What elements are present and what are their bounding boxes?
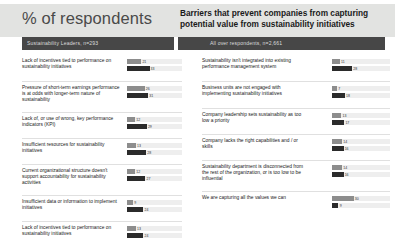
chart-row: Current organizational structure doesn't… <box>22 165 182 196</box>
bar-fill-others <box>127 150 146 155</box>
bar-value-label: 18 <box>346 93 350 99</box>
bar-track: 21 <box>127 59 182 64</box>
bar-value-label: 13 <box>137 143 141 149</box>
bar-value-label: 12 <box>136 169 140 175</box>
chart-row-label: Lack of incentives tied to performance o… <box>22 225 120 237</box>
bar-track: 18 <box>332 93 390 98</box>
bar-fill-others <box>127 176 145 181</box>
chart-page: % of respondents Barriers that prevent c… <box>0 0 395 248</box>
subheader-label-others: All over respondents, n=2,661 <box>210 40 282 46</box>
bar-fill-others <box>127 207 143 212</box>
chart-row-bars: 2133 <box>127 59 182 73</box>
bar-value-label: 16 <box>345 172 349 178</box>
bar-fill-others <box>127 233 143 238</box>
chart-row-label: Current organizational structure doesn't… <box>22 168 120 187</box>
chart-row-label: Lack of incentives tied to performance o… <box>22 58 120 70</box>
bar-fill-leaders <box>332 139 342 144</box>
bar-value-label: 12 <box>136 117 140 123</box>
page-title-left: % of respondents <box>22 9 152 28</box>
bar-track: 30 <box>332 196 390 201</box>
chart-row-label: Lack of, or use of wrong, key performanc… <box>22 116 120 128</box>
chart-row-bars: 1128 <box>332 59 390 73</box>
chart-row-bars: 924 <box>127 200 182 214</box>
bar-track: 33 <box>127 66 182 71</box>
chart-row: Lack of incentives tied to performance o… <box>22 222 182 248</box>
bar-value-label: 27 <box>147 176 151 182</box>
subheader-bar-others: All over respondents, n=2,661 <box>178 37 385 50</box>
chart-row: Business units are not engaged with impl… <box>202 82 390 109</box>
bar-fill-leaders <box>332 165 342 170</box>
bar-fill-others <box>127 93 148 98</box>
bar-track: 28 <box>332 66 390 71</box>
bar-track: 13 <box>127 143 182 148</box>
bar-track: 26 <box>127 86 182 91</box>
bar-fill-others <box>332 172 344 177</box>
bar-fill-others <box>332 120 344 125</box>
bar-fill-leaders <box>127 59 141 64</box>
bar-track: 9 <box>332 203 390 208</box>
bar-value-label: 31 <box>149 93 153 99</box>
chart-row-bars: 1324 <box>127 226 182 240</box>
bar-fill-leaders <box>127 169 135 174</box>
chart-row-label: Insufficient data or information to impl… <box>22 199 120 211</box>
bar-fill-others <box>127 124 147 129</box>
subheader-bar-leaders: Sustainability Leaders, n=293 <box>22 37 174 50</box>
subheader-label-leaders: Sustainability Leaders, n=293 <box>27 40 98 46</box>
chart-row: Insufficient data or information to impl… <box>22 196 182 222</box>
bar-track: 12 <box>127 117 182 122</box>
chart-row: We are capturing all the values we can30… <box>202 192 390 218</box>
bar-fill-leaders <box>332 86 337 91</box>
chart-row-label: Business units are not engaged with impl… <box>202 85 306 97</box>
bar-fill-leaders <box>332 59 340 64</box>
bar-fill-leaders <box>127 226 136 231</box>
chart-column-left: Lack of incentives tied to performance o… <box>22 55 182 248</box>
chart-row-bars: 1229 <box>127 117 182 131</box>
bar-value-label: 28 <box>353 66 357 72</box>
bar-fill-others <box>127 66 150 71</box>
bar-value-label: 24 <box>144 207 148 213</box>
bar-fill-others <box>332 93 345 98</box>
bar-track: 14 <box>332 165 390 170</box>
bar-value-label: 16 <box>345 146 349 152</box>
bar-fill-leaders <box>332 113 341 118</box>
bar-fill-leaders <box>332 196 354 201</box>
chart-column-right: Sustainability isn't integrated into exi… <box>202 55 390 218</box>
bar-value-label: 13 <box>343 113 347 119</box>
bar-track: 12 <box>127 169 182 174</box>
bar-value-label: 17 <box>345 120 349 126</box>
chart-row-bars: 718 <box>332 86 390 100</box>
chart-row-label: Insufficient resources for sustainabilit… <box>22 142 120 154</box>
bar-track: 29 <box>127 124 182 129</box>
chart-row: Sustainability department is disconnecte… <box>202 161 390 192</box>
bar-value-label: 29 <box>148 124 152 130</box>
bar-fill-others <box>332 66 352 71</box>
chart-row-label: We are capturing all the values we can <box>202 195 306 201</box>
chart-row: Insufficient resources for sustainabilit… <box>22 139 182 165</box>
chart-row-bars: 1328 <box>127 143 182 157</box>
bar-value-label: 21 <box>142 59 146 65</box>
bar-fill-others <box>332 203 338 208</box>
bar-value-label: 7 <box>338 86 340 92</box>
bar-fill-leaders <box>127 117 135 122</box>
bar-value-label: 13 <box>137 226 141 232</box>
bar-track: 24 <box>127 233 182 238</box>
bar-track: 7 <box>332 86 390 91</box>
bar-track: 24 <box>127 207 182 212</box>
bar-track: 11 <box>332 59 390 64</box>
chart-row: Company leadership sets sustainability a… <box>202 109 390 135</box>
bar-value-label: 26 <box>146 86 150 92</box>
chart-row-bars: 1227 <box>127 169 182 183</box>
bar-value-label: 33 <box>151 66 155 72</box>
bar-value-label: 30 <box>355 196 359 202</box>
chart-row-bars: 309 <box>332 196 390 210</box>
bar-value-label: 14 <box>343 139 347 145</box>
chart-row: Lack of incentives tied to performance o… <box>22 55 182 82</box>
chart-row: Pressure of short-term earnings performa… <box>22 82 182 113</box>
bar-fill-leaders <box>127 86 145 91</box>
bar-fill-others <box>332 146 344 151</box>
bar-value-label: 24 <box>144 233 148 239</box>
bar-value-label: 14 <box>343 165 347 171</box>
bar-track: 27 <box>127 176 182 181</box>
bar-value-label: 28 <box>147 150 151 156</box>
bar-track: 9 <box>127 200 182 205</box>
